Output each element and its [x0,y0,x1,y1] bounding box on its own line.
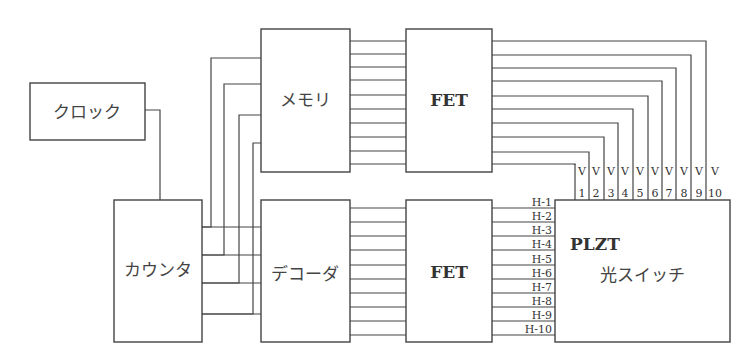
svg-text:H-7: H-7 [532,281,552,294]
svg-text:3: 3 [608,187,615,200]
svg-text:7: 7 [666,187,673,200]
memory-fet-bus [350,41,406,164]
decoder-label: デコーダ [271,264,339,284]
svg-text:V: V [710,165,720,178]
svg-text:V: V [577,165,587,178]
svg-text:H-4: H-4 [532,238,552,251]
v-labels: V 1 V 2 V 3 V 4 V 5 V 6 V 7 V 8 V 9 V 10 [577,165,722,200]
svg-text:4: 4 [622,187,629,200]
fet-bottom-label: FET [430,262,468,282]
svg-text:1: 1 [579,187,586,200]
svg-text:H-5: H-5 [532,253,552,266]
clock-label: クロック [53,102,121,122]
svg-text:5: 5 [637,187,644,200]
svg-text:H-8: H-8 [532,295,552,308]
svg-text:H-6: H-6 [532,267,552,280]
svg-text:6: 6 [652,187,659,200]
svg-text:H-9: H-9 [532,309,552,322]
fet-top-label: FET [430,90,468,110]
svg-text:V: V [664,165,674,178]
svg-text:V: V [635,165,645,178]
svg-text:H-1: H-1 [532,196,552,209]
h-labels: H-1 H-2 H-3 H-4 H-5 H-6 H-7 H-8 H-9 H-10 [525,196,552,336]
decoder-fet-bus [350,208,406,335]
optical-switch-label: 光スイッチ [600,265,685,285]
block-diagram: クロック メモリ FET カウンタ デコーダ FET PLZT 光スイッチ V … [0,0,750,364]
counter-label: カウンタ [124,260,192,280]
svg-text:V: V [679,165,689,178]
memory-label: メモリ [280,90,331,110]
svg-text:H-3: H-3 [532,224,552,237]
plzt-label: PLZT [570,234,620,254]
svg-text:H-2: H-2 [532,210,552,223]
svg-text:8: 8 [681,187,688,200]
svg-text:10: 10 [708,187,722,200]
svg-text:V: V [694,165,704,178]
svg-text:V: V [620,165,630,178]
svg-text:V: V [650,165,660,178]
svg-text:V: V [606,165,616,178]
svg-text:9: 9 [696,187,703,200]
counter-memory-wires [202,58,261,314]
counter-decoder-wires [202,227,261,314]
fet-v-wires [492,41,706,165]
svg-text:2: 2 [593,187,600,200]
svg-text:V: V [591,165,601,178]
svg-text:H-10: H-10 [525,323,552,336]
clock-counter-wire [145,110,160,200]
